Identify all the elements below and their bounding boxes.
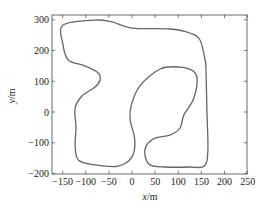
y-axis-label-unit: /m	[6, 88, 17, 99]
x-tick-label: −150	[52, 176, 73, 187]
y-tick-label: 200	[34, 45, 49, 56]
track-path	[61, 20, 208, 168]
x-tick-label: 100	[171, 176, 186, 187]
plot-frame	[52, 15, 247, 174]
y-tick-label: 300	[34, 14, 49, 25]
track-chart: −150−100−50050100150200250 −200−10001002…	[0, 0, 269, 213]
x-axis-label-unit: /m	[147, 191, 158, 202]
y-tick-label: 100	[34, 76, 49, 87]
y-axis-tick-labels: −200−1000100200300	[28, 14, 49, 179]
y-tick-label: 0	[44, 107, 49, 118]
x-tick-label: −100	[75, 176, 96, 187]
x-tick-label: 200	[217, 176, 232, 187]
y-tick-label: −100	[28, 137, 49, 148]
x-tick-label: 250	[240, 176, 255, 187]
x-tick-label: −50	[101, 176, 117, 187]
x-tick-label: 0	[130, 176, 135, 187]
y-tick-label: −200	[28, 168, 49, 179]
x-axis-ticks	[63, 15, 248, 174]
x-axis-tick-labels: −150−100−50050100150200250	[52, 176, 255, 187]
x-tick-label: 150	[194, 176, 209, 187]
x-tick-label: 50	[150, 176, 160, 187]
y-axis-label: y/m	[6, 88, 17, 104]
x-axis-label: x/m	[141, 191, 157, 202]
